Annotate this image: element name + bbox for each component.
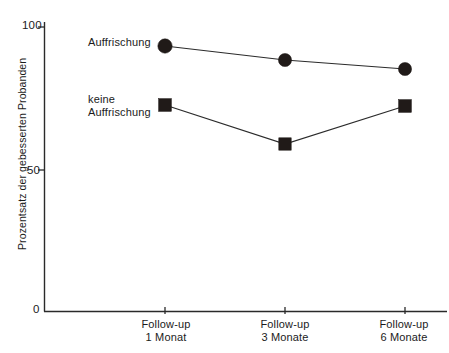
x-tick-0-line1: Follow-up bbox=[141, 318, 190, 330]
x-axis-tick-label-6-monate: Follow-up 6 Monate bbox=[349, 318, 449, 344]
data-point-auffrischung-1[interactable] bbox=[158, 39, 172, 53]
legend-label-keine-auffrischung: keine Auffrischung bbox=[88, 93, 151, 119]
x-tick-1-line2: 3 Monate bbox=[230, 331, 340, 344]
data-point-keine-auffrischung-2[interactable] bbox=[279, 138, 291, 150]
x-tick-1-line1: Follow-up bbox=[260, 318, 309, 330]
data-point-keine-auffrischung-3[interactable] bbox=[399, 100, 412, 113]
legend-label-auffrischung: Auffrischung bbox=[88, 36, 151, 49]
y-axis-tick-label-0: 0 bbox=[33, 303, 40, 317]
y-axis-tick-label-50: 50 bbox=[27, 164, 40, 178]
data-point-auffrischung-3[interactable] bbox=[398, 62, 411, 75]
x-tick-0-line2: 1 Monat bbox=[111, 331, 221, 344]
data-point-keine-auffrischung-1[interactable] bbox=[159, 99, 172, 112]
chart-figure: 100 50 0 Prozentsatz der gebesserten Pro… bbox=[0, 0, 449, 353]
data-point-auffrischung-2[interactable] bbox=[278, 53, 291, 66]
y-axis-tick-label-100: 100 bbox=[22, 19, 42, 33]
legend-label-keine-line2: Auffrischung bbox=[88, 106, 151, 119]
y-axis-title: Prozentsatz der gebesserten Probanden bbox=[16, 58, 28, 250]
legend-label-keine-line1: keine bbox=[88, 93, 115, 105]
x-axis-tick-label-3-monate: Follow-up 3 Monate bbox=[230, 318, 340, 344]
x-axis-tick-label-1-monat: Follow-up 1 Monat bbox=[111, 318, 221, 344]
line-chart-canvas bbox=[0, 0, 449, 353]
x-tick-2-line1: Follow-up bbox=[379, 318, 428, 330]
x-tick-2-line2: 6 Monate bbox=[349, 331, 449, 344]
